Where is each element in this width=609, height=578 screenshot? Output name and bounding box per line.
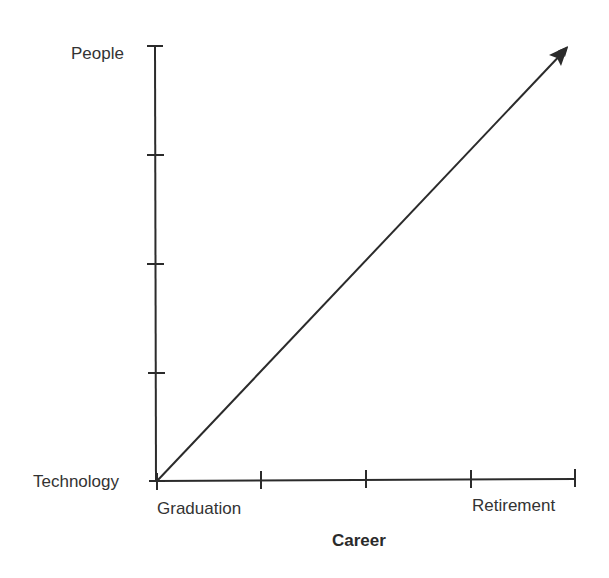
- x-axis-title: Career: [332, 532, 386, 549]
- x-axis: [156, 469, 576, 490]
- y-bottom-label: Technology: [33, 473, 119, 490]
- career-arrow: [157, 49, 566, 481]
- career-diagram: People Technology Graduation Retirement …: [0, 0, 609, 578]
- x-end-label: Retirement: [472, 497, 555, 514]
- diagram-svg: [0, 0, 609, 578]
- y-axis: [147, 46, 165, 482]
- x-start-label: Graduation: [157, 500, 241, 517]
- y-top-label: People: [71, 45, 124, 62]
